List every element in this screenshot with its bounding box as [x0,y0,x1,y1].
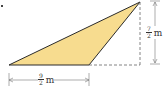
base-unit: m [46,75,55,85]
base-fraction: 9 2 [38,73,44,86]
height-label: 7 2 m [146,26,162,39]
height-fraction: 7 2 [146,26,152,39]
base-label: 9 2 m [38,73,54,86]
triangle-shape [9,2,140,65]
triangle-diagram [0,0,164,88]
height-unit: m [154,28,163,38]
bullet-marker [1,5,3,7]
